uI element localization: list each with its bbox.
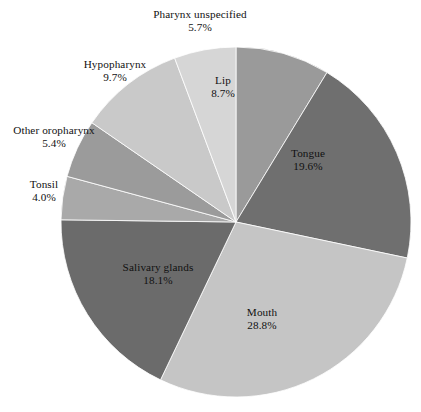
pie-label-lip: Lip 8.7% xyxy=(188,74,258,100)
pie-label-pharynx-unspecified-value: 5.7% xyxy=(152,21,248,34)
pie-label-pharynx-unspecified: Pharynx unspecified 5.7% xyxy=(152,8,248,34)
pie-label-hypopharynx-value: 9.7% xyxy=(66,71,164,84)
pie-label-lip-name: Lip xyxy=(188,74,258,87)
pie-label-mouth-value: 28.8% xyxy=(222,319,302,332)
pie-label-salivary-glands-value: 18.1% xyxy=(95,274,221,287)
pie-label-tonsil-value: 4.0% xyxy=(7,191,81,204)
pie-label-tongue-value: 19.6% xyxy=(268,160,348,173)
pie-label-other-oropharynx-value: 5.4% xyxy=(2,137,106,150)
pie-label-tonsil-name: Tonsil xyxy=(7,178,81,191)
pie-label-tongue: Tongue 19.6% xyxy=(268,147,348,173)
pie-label-tonsil: Tonsil 4.0% xyxy=(7,178,81,204)
pie-label-lip-value: 8.7% xyxy=(188,87,258,100)
pie-label-other-oropharynx: Other oropharynx 5.4% xyxy=(2,124,106,150)
pie-chart-svg xyxy=(0,0,421,412)
pie-label-pharynx-unspecified-name: Pharynx unspecified xyxy=(152,8,248,21)
pie-label-salivary-glands-name: Salivary glands xyxy=(95,261,221,274)
pie-label-mouth-name: Mouth xyxy=(222,306,302,319)
pie-label-hypopharynx-name: Hypopharynx xyxy=(66,58,164,71)
pie-label-other-oropharynx-name: Other oropharynx xyxy=(2,124,106,137)
pie-label-tongue-name: Tongue xyxy=(268,147,348,160)
pie-chart-figure: Lip 8.7% Tongue 19.6% Mouth 28.8% Saliva… xyxy=(0,0,421,412)
pie-label-hypopharynx: Hypopharynx 9.7% xyxy=(66,58,164,84)
pie-label-mouth: Mouth 28.8% xyxy=(222,306,302,332)
pie-label-salivary-glands: Salivary glands 18.1% xyxy=(95,261,221,287)
